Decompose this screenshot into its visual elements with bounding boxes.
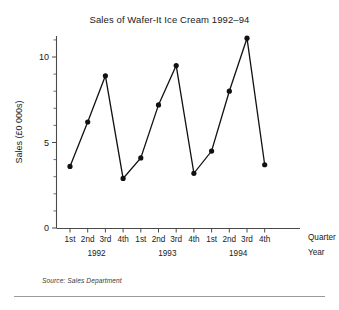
- data-point: [209, 148, 214, 153]
- year-label: 1994: [229, 249, 248, 258]
- x-tick-label: 2nd: [222, 235, 236, 244]
- year-label-group: 199219931994: [87, 249, 247, 258]
- data-point: [85, 119, 90, 124]
- x-tick-label: 3rd: [241, 235, 253, 244]
- data-point: [174, 63, 179, 68]
- data-point: [103, 73, 108, 78]
- chart-figure: Sales of Wafer-It Ice Cream 1992–94 0510…: [0, 0, 339, 310]
- sales-line-series: [70, 38, 265, 178]
- data-point: [227, 89, 232, 94]
- data-point: [138, 155, 143, 160]
- y-tick-label: 10: [39, 52, 49, 62]
- line-chart-svg: 0510 1st2nd3rd4th1st2nd3rd4th1st2nd3rd4t…: [0, 0, 339, 310]
- x-tick-label: 4th: [117, 235, 129, 244]
- x-tick-label: 2nd: [81, 235, 95, 244]
- x-tick-label: 3rd: [99, 235, 111, 244]
- y-tick-label: 5: [44, 138, 49, 148]
- x-tick-label: 1st: [135, 235, 147, 244]
- y-tick-label-group: 0510: [39, 52, 49, 233]
- y-axis-label: Sales (£0 000s): [14, 100, 24, 163]
- year-label: 1993: [158, 249, 177, 258]
- x-tick-group: [70, 229, 265, 233]
- source-note: Source: Sales Department: [42, 277, 122, 284]
- y-tick-group: [52, 40, 57, 228]
- x-tick-label: 2nd: [152, 235, 166, 244]
- y-tick-label: 0: [44, 223, 49, 233]
- x-tick-label-group: 1st2nd3rd4th1st2nd3rd4th1st2nd3rd4th: [65, 235, 271, 244]
- data-point: [262, 162, 267, 167]
- x-tick-label: 1st: [65, 235, 77, 244]
- data-point: [121, 176, 126, 181]
- plot-area: 0510 1st2nd3rd4th1st2nd3rd4th1st2nd3rd4t…: [0, 0, 339, 310]
- data-point: [244, 36, 249, 41]
- x-tick-label: 4th: [188, 235, 200, 244]
- x-tick-label: 1st: [206, 235, 218, 244]
- year-label: 1992: [87, 249, 106, 258]
- x-tick-label: 3rd: [170, 235, 182, 244]
- data-point: [67, 164, 72, 169]
- x-tick-label: 4th: [259, 235, 271, 244]
- data-point: [156, 102, 161, 107]
- data-point-markers: [67, 36, 267, 181]
- bottom-divider: [14, 296, 325, 297]
- data-point: [191, 171, 196, 176]
- x-axis-quarter-label: Quarter: [308, 233, 336, 242]
- x-axis-year-label: Year: [308, 248, 325, 257]
